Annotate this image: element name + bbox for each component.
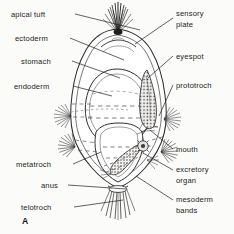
label-mesoderm-bands: mesoderm bands: [176, 195, 213, 216]
label-mouth: mouth: [176, 145, 198, 156]
trochophore-larva-figure: apical tuftectodermstomachendodermmetatr…: [0, 0, 234, 234]
label-sensory-plate: sensory plate: [176, 9, 204, 30]
flame-cell-rosette: [136, 139, 151, 154]
leader-apical-tuft: [75, 14, 140, 30]
label-apical-tuft: apical tuft: [11, 10, 45, 21]
apical-tuft: [103, 2, 133, 35]
label-excretory-organ: excretory organ: [176, 165, 209, 186]
label-anus: anus: [41, 181, 58, 192]
label-prototroch: prototroch: [176, 81, 212, 92]
leader-mesoderm-bands: [136, 176, 173, 200]
label-endoderm: endoderm: [14, 82, 49, 93]
label-ectoderm: ectoderm: [15, 34, 48, 45]
anus-telotroch: [101, 186, 135, 220]
leader-sensory-plate: [135, 18, 173, 44]
label-metatroch: metatroch: [16, 160, 51, 171]
label-stomach: stomach: [21, 57, 51, 68]
label-eyespot: eyespot: [176, 52, 204, 63]
label-telotroch: telotroch: [21, 203, 51, 214]
panel-id: A: [22, 216, 28, 226]
telotroch-cilia: [101, 190, 135, 220]
